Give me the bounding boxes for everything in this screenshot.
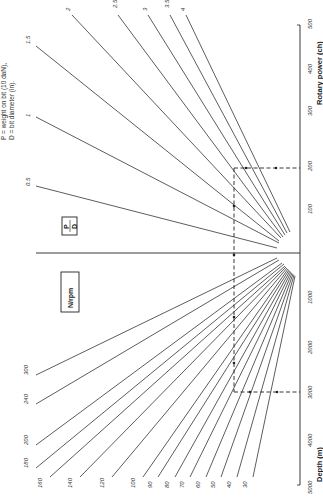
rpm-label: 70 <box>179 481 185 488</box>
rpm-line <box>190 272 291 477</box>
svg-text:4000: 4000 <box>307 433 313 447</box>
pd-line <box>148 15 285 235</box>
rpm-line <box>50 266 285 477</box>
pd-label: 0.5 <box>25 177 31 186</box>
rpm-label: 50 <box>210 481 216 488</box>
svg-text:300: 300 <box>307 105 313 116</box>
svg-text:400: 400 <box>307 63 313 74</box>
pd-line <box>36 46 279 241</box>
pd-label: 1 <box>25 114 31 117</box>
rpm-line <box>36 260 279 404</box>
rpm-label: 180 <box>23 457 29 468</box>
rpm-line <box>175 271 290 477</box>
svg-text:D: D <box>71 224 78 229</box>
depth-axis-label: Depth (m) <box>315 447 323 482</box>
rpm-line <box>206 273 292 477</box>
svg-text:5000: 5000 <box>307 480 313 494</box>
rpm-line <box>237 275 294 477</box>
rpm-label: 160 <box>37 477 43 488</box>
rpm-label: 200 <box>23 434 29 446</box>
rpm-line <box>80 267 286 477</box>
rpm-label: 100 <box>130 477 136 488</box>
pd-box: P D <box>62 217 78 235</box>
power-ticks: 100 200 300 400 500 <box>307 18 313 214</box>
rpm-label: 90 <box>147 481 153 488</box>
pd-label: 4 <box>180 7 186 11</box>
rpm-label: 60 <box>195 481 201 488</box>
rpm-label: 140 <box>67 477 73 488</box>
rpm-label: 30 <box>242 481 248 488</box>
svg-text:N/rpm: N/rpm <box>67 288 75 308</box>
pd-label: 2.5 <box>112 0 118 9</box>
rpm-line <box>112 268 287 477</box>
rpm-label: 40 <box>226 481 232 488</box>
rpm-lines: 30024020018016014012010090807060504030 <box>23 258 295 488</box>
note-line-2: D = bit diameter (in). <box>8 81 16 140</box>
nomogram: P = weight on bit (10 daN), D = bit diam… <box>0 0 323 497</box>
svg-text:100: 100 <box>307 203 313 214</box>
svg-text:3000: 3000 <box>307 385 313 399</box>
rpm-label: 120 <box>99 477 105 488</box>
svg-text:1000: 1000 <box>307 290 313 304</box>
pd-line <box>186 15 290 232</box>
rpm-label: 300 <box>23 364 29 375</box>
svg-text:200: 200 <box>307 160 313 172</box>
pd-label: 3 <box>142 7 148 11</box>
rpm-line <box>36 258 277 375</box>
rpm-line <box>158 270 289 477</box>
svg-text:2000: 2000 <box>307 340 313 355</box>
legend-note: P = weight on bit (10 daN), D = bit diam… <box>0 63 16 140</box>
rpm-label: 240 <box>23 393 29 405</box>
pd-lines: 0.511.522.533.54 <box>25 0 290 248</box>
svg-text:P: P <box>63 224 70 229</box>
power-axis-label: Rotary power (ch) <box>315 41 323 105</box>
pd-label: 3.5 <box>164 0 170 8</box>
depth-ticks: 1000 2000 3000 4000 5000 <box>307 290 313 494</box>
rpm-label: 80 <box>164 481 170 488</box>
pd-label: 1.5 <box>25 35 31 44</box>
svg-text:500: 500 <box>307 18 313 29</box>
note-line-1: P = weight on bit (10 daN), <box>0 63 8 140</box>
pd-label: 2 <box>65 7 71 12</box>
pd-line <box>118 15 283 237</box>
rpm-box: N/rpm <box>61 272 79 312</box>
example-path <box>234 168 300 392</box>
pd-line <box>72 15 281 238</box>
